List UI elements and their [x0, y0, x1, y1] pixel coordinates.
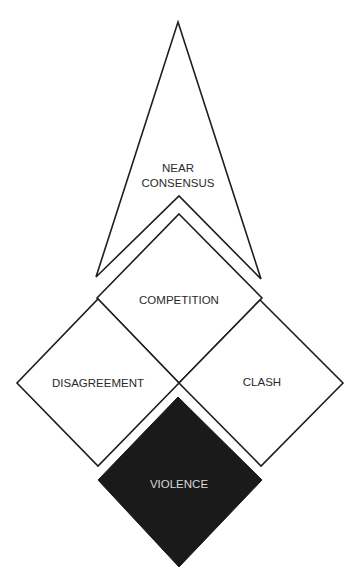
- conflict-spectrum-diagram: NEAR CONSENSUS COMPETITION DISAGREEMENT …: [0, 0, 358, 586]
- near-consensus-label-line2: CONSENSUS: [142, 177, 215, 189]
- clash-label: CLASH: [243, 376, 281, 388]
- disagreement-label: DISAGREEMENT: [52, 377, 144, 389]
- near-consensus-label-line1: NEAR: [162, 162, 194, 174]
- violence-label: VIOLENCE: [150, 478, 208, 490]
- competition-label: COMPETITION: [139, 294, 219, 306]
